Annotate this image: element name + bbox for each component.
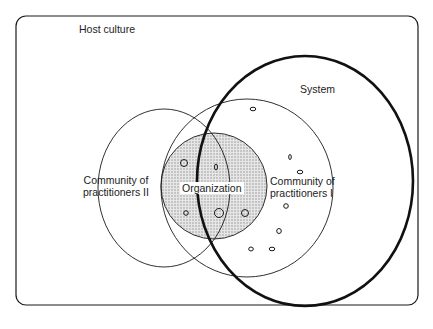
community-i-label-line2: practitioners I xyxy=(270,187,335,199)
member-dot xyxy=(269,247,275,251)
member-dot xyxy=(297,170,303,174)
member-dot xyxy=(249,247,254,251)
community-ii-label-line1: Community of xyxy=(80,174,152,186)
community-ii-label: Community of practitioners II xyxy=(80,174,152,198)
member-dot xyxy=(277,229,282,234)
member-dot xyxy=(289,155,292,160)
community-i-label-line1: Community of xyxy=(270,175,335,187)
member-dot xyxy=(250,107,256,111)
host-culture-label: Host culture xyxy=(79,23,135,35)
community-ii-label-line2: practitioners II xyxy=(80,186,152,198)
community-i-label: Community of practitioners I xyxy=(270,175,335,199)
organization-label: Organization xyxy=(180,182,244,194)
system-label: System xyxy=(300,83,335,95)
diagram-canvas xyxy=(0,0,433,329)
member-dot xyxy=(284,204,289,209)
